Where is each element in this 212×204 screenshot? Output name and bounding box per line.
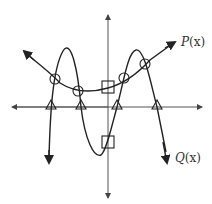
label-p-of-x: P(x) (181, 35, 205, 49)
label-q-name: Q (175, 151, 185, 165)
polynomial-graph (0, 0, 212, 204)
triangle-markers (46, 100, 162, 109)
label-p-name: P (181, 35, 189, 49)
p-arrow-left (24, 51, 34, 60)
label-p-arg: (x) (189, 35, 205, 49)
p-arrow-right (165, 42, 175, 48)
label-q-of-x: Q(x) (175, 151, 201, 165)
curve-p (24, 44, 172, 91)
label-q-arg: (x) (185, 151, 201, 165)
